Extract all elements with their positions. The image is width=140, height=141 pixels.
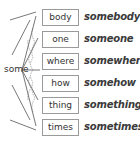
root-word-some: some [4, 64, 29, 74]
compound-word-somehow: somehow [84, 75, 136, 90]
suffix-box-body: body [42, 9, 79, 26]
suffix-box-where: where [42, 53, 79, 70]
suffix-box-one: one [42, 31, 79, 48]
suffix-box-how: how [42, 75, 79, 92]
compound-word-someone: someone [84, 31, 133, 46]
suffix-box-times: times [42, 119, 79, 136]
suffix-box-thing: thing [42, 97, 79, 114]
compound-word-somebody: somebody [84, 9, 140, 24]
compound-word-sometimes: sometimes [84, 119, 140, 134]
compound-word-somewhere: somewhere [84, 53, 140, 68]
compound-word-something: something [84, 97, 140, 112]
